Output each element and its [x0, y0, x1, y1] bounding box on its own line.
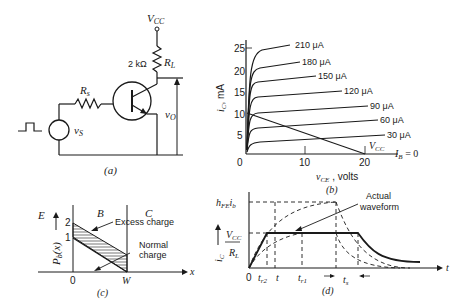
svg-text:2: 2	[65, 217, 71, 228]
svg-text:120 μA: 120 μA	[344, 86, 373, 96]
pb-label: Pb(x)	[50, 242, 64, 266]
figure: VCC 2 kΩ RL Rs vS vO (a)	[0, 0, 457, 306]
vo-label: vO	[165, 108, 176, 122]
rs-resistor-icon	[75, 99, 101, 108]
tr2-label: tr2	[258, 272, 268, 285]
rl-resistor-icon	[153, 46, 161, 72]
svg-text:0: 0	[70, 275, 76, 286]
rs-label: Rs	[79, 84, 90, 98]
svg-text:10: 10	[299, 157, 311, 168]
caption-c: (c)	[97, 287, 109, 299]
x-axis-label: vCE , volts	[316, 171, 358, 184]
rl-value: 2 kΩ	[128, 59, 147, 69]
voltage-source-icon	[49, 120, 69, 140]
caption-a: (a)	[104, 164, 117, 177]
svg-text:20: 20	[234, 66, 246, 77]
svg-text:90 μA: 90 μA	[370, 101, 394, 111]
panel-d-waveform: t hFEib VCC RL iC Actual waveform 0 tr2 …	[213, 191, 449, 297]
svg-text:charge: charge	[139, 250, 167, 260]
svg-text:W: W	[122, 275, 132, 286]
caption-d: (d)	[322, 285, 334, 297]
vcc-label: VCC	[147, 12, 165, 26]
vcc-point-label: VCC	[369, 140, 385, 153]
svg-text:Actual: Actual	[366, 191, 391, 201]
y-axis-label: iC, mA	[215, 84, 228, 112]
svg-text:0: 0	[237, 157, 243, 168]
ib-zero-label: IB = 0	[394, 148, 418, 161]
vcc-terminal-icon	[155, 27, 159, 31]
svg-text:25: 25	[234, 43, 246, 54]
svg-text:waveform: waveform	[359, 202, 399, 212]
excess-charge-region	[73, 223, 127, 272]
svg-text:E: E	[37, 209, 45, 221]
rl-label: RL	[163, 56, 176, 70]
caption-b: (b)	[326, 184, 338, 196]
pulse-icon	[18, 123, 42, 131]
svg-text:t: t	[446, 262, 449, 273]
svg-text:0: 0	[246, 272, 252, 283]
ts-label: ts	[343, 274, 349, 287]
svg-text:Excess charge: Excess charge	[115, 217, 174, 227]
load-line	[247, 113, 365, 154]
vs-label: vS	[74, 124, 83, 138]
panel-c-charge: x E B C Pb(x) 2 1 0 W Excess charge Norm…	[37, 205, 195, 299]
svg-text:180 μA: 180 μA	[302, 57, 331, 67]
svg-text:t: t	[276, 272, 279, 283]
vcc-label-d: VCC	[226, 229, 242, 242]
svg-text:1: 1	[65, 232, 71, 243]
svg-text:Normal: Normal	[139, 240, 168, 250]
hfe-label: hFEib	[216, 197, 236, 210]
svg-text:150 μA: 150 μA	[318, 71, 347, 81]
rl-label-d: RL	[228, 247, 239, 260]
ic-label-d: iC	[213, 254, 226, 262]
svg-text:5: 5	[237, 130, 243, 141]
svg-text:60 μA: 60 μA	[380, 115, 404, 125]
svg-text:210 μA: 210 μA	[295, 40, 324, 50]
tr1-label: tr1	[298, 272, 307, 285]
panel-b-chart: 25 20 15 10 5 0 10 20 iC, mA vCE , volts…	[215, 40, 418, 196]
panel-a-circuit: VCC 2 kΩ RL Rs vS vO (a)	[18, 12, 183, 177]
svg-text:x: x	[189, 266, 195, 277]
svg-text:10: 10	[234, 109, 246, 120]
svg-text:20: 20	[359, 157, 371, 168]
svg-text:15: 15	[234, 87, 246, 98]
svg-text:B: B	[97, 207, 104, 219]
svg-text:30 μA: 30 μA	[387, 130, 411, 140]
